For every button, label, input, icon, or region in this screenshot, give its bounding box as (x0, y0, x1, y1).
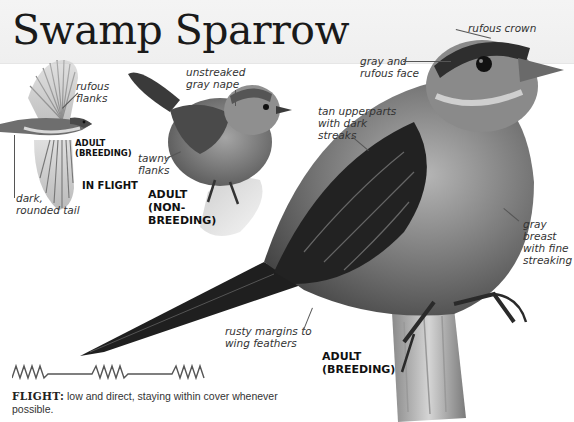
label-tan-upperparts: tan upperparts with dark streaks (318, 105, 396, 141)
flight-pattern-icon (12, 362, 212, 382)
flight-heading: FLIGHT: (12, 390, 64, 402)
leader-line (14, 135, 15, 198)
label-rufous-crown: rufous crown (468, 22, 536, 34)
label-dark-rounded-tail: dark, rounded tail (16, 192, 80, 216)
tag-breeding: ADULT (BREEDING) (322, 350, 395, 376)
label-rusty-margins: rusty margins to wing feathers (225, 325, 312, 349)
label-gray-breast: gray breast with fine streaking (523, 218, 572, 266)
leader-line (403, 61, 451, 62)
label-gray-rufous-face: gray and rufous face (360, 55, 419, 79)
flight-description: FLIGHT: low and direct, staying within c… (12, 390, 312, 416)
